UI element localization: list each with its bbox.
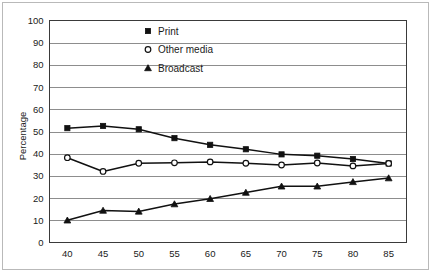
x-tick-40: 40 (62, 248, 73, 259)
legend-item-print: Print (145, 26, 178, 37)
y-tick-10: 10 (33, 215, 44, 226)
series-line-print (67, 126, 388, 164)
series-layer (64, 123, 392, 223)
marker-print-65 (243, 147, 248, 152)
series-line-broadcast (67, 178, 388, 220)
marker-print-60 (208, 142, 213, 147)
marker-print-75 (315, 153, 320, 158)
x-tick-80: 80 (348, 248, 359, 259)
x-tick-70: 70 (276, 248, 287, 259)
y-tick-70: 70 (33, 82, 44, 93)
x-tick-50: 50 (133, 248, 144, 259)
series-line-other-media (67, 158, 388, 172)
legend-item-other-media: Other media (145, 44, 213, 55)
marker-print-40 (65, 126, 70, 131)
y-tick-40: 40 (33, 148, 44, 159)
line-chart: 0102030405060708090100 40455055606570758… (0, 0, 431, 272)
y-tick-30: 30 (33, 170, 44, 181)
marker-other-media-50 (136, 160, 142, 166)
marker-print-80 (350, 156, 355, 161)
marker-other-media-85 (386, 161, 392, 167)
y-tick-0: 0 (38, 237, 43, 248)
legend-label-print: Print (158, 26, 179, 37)
marker-print-50 (136, 127, 141, 132)
x-tick-60: 60 (205, 248, 216, 259)
legend-item-broadcast: Broadcast (145, 63, 204, 74)
marker-print-45 (100, 123, 105, 128)
legend-label-broadcast: Broadcast (158, 63, 203, 74)
y-tick-90: 90 (33, 37, 44, 48)
marker-other-media-40 (65, 155, 71, 161)
outer-border (3, 3, 429, 270)
chart-legend: PrintOther mediaBroadcast (145, 26, 214, 74)
y-axis-title: Percentage (17, 112, 28, 161)
y-tick-50: 50 (33, 126, 44, 137)
marker-other-media-70 (279, 162, 285, 168)
legend-label-other-media: Other media (158, 44, 213, 55)
x-tick-75: 75 (312, 248, 323, 259)
x-tick-65: 65 (241, 248, 252, 259)
x-axis-tick-labels: 40455055606570758085 (62, 248, 394, 259)
y-tick-100: 100 (28, 15, 44, 26)
marker-other-media-60 (207, 159, 213, 165)
legend-marker-other-media (145, 47, 151, 53)
chart-container: 0102030405060708090100 40455055606570758… (0, 0, 431, 272)
x-tick-55: 55 (169, 248, 180, 259)
y-tick-20: 20 (33, 193, 44, 204)
marker-other-media-75 (314, 160, 320, 166)
gridlines (50, 44, 407, 221)
marker-other-media-55 (172, 160, 178, 166)
marker-other-media-65 (243, 160, 249, 166)
marker-print-70 (279, 152, 284, 157)
marker-other-media-45 (100, 169, 106, 175)
series-print (65, 123, 392, 166)
marker-other-media-80 (350, 163, 356, 169)
legend-marker-print (145, 28, 150, 33)
y-tick-60: 60 (33, 104, 44, 115)
y-axis-tick-labels: 0102030405060708090100 (28, 15, 44, 248)
x-tick-85: 85 (383, 248, 394, 259)
marker-print-55 (172, 136, 177, 141)
y-tick-80: 80 (33, 59, 44, 70)
x-tick-45: 45 (98, 248, 109, 259)
